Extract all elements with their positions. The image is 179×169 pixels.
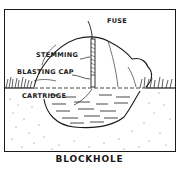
blasting-cap-leader bbox=[72, 75, 90, 79]
stemming-leader bbox=[80, 57, 90, 59]
label-stemming: STEMMING bbox=[36, 51, 78, 59]
cartridge-leader bbox=[74, 89, 92, 105]
drill-hole bbox=[91, 39, 95, 87]
label-blasting-cap: BLASTING CAP bbox=[17, 68, 74, 76]
label-cartridge: CARTRIDGE bbox=[22, 92, 66, 100]
label-fuse: FUSE bbox=[107, 17, 127, 25]
soil-stipple bbox=[10, 93, 171, 150]
diagram-frame: FUSE STEMMING BLASTING CAP CARTRIDGE bbox=[4, 9, 176, 152]
diagram-caption: BLOCKHOLE bbox=[0, 154, 179, 164]
blockhole-illustration bbox=[4, 9, 176, 152]
fuse-line bbox=[88, 21, 92, 39]
